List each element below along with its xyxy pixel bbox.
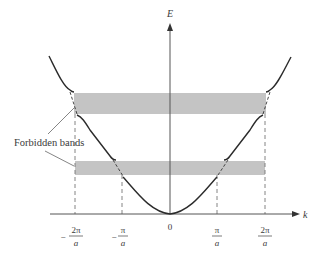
k-axis-label: k: [303, 209, 308, 220]
svg-text:a: a: [263, 238, 268, 248]
tick-label-neg-pi-a: − π a: [111, 225, 128, 248]
e-axis-label: E: [166, 8, 173, 19]
svg-text:−: −: [60, 232, 65, 242]
svg-text:a: a: [215, 238, 220, 248]
e-axis-arrow-icon: [167, 23, 173, 31]
svg-text:a: a: [121, 238, 126, 248]
tick-label-2pi-a: 2π a: [258, 225, 272, 248]
svg-text:π: π: [121, 225, 126, 235]
svg-text:π: π: [215, 225, 220, 235]
forbidden-bands-label: Forbidden bands: [14, 137, 84, 148]
tick-label-zero: 0: [168, 222, 173, 232]
svg-text:−: −: [111, 232, 116, 242]
energy-band-diagram: Forbidden bands E k − 2π a − π a 0 π a 2…: [0, 0, 321, 259]
svg-text:2π: 2π: [71, 225, 81, 235]
k-axis-arrow-icon: [292, 211, 300, 217]
svg-text:2π: 2π: [260, 225, 270, 235]
svg-text:a: a: [74, 238, 79, 248]
tick-label-pi-a: π a: [212, 225, 222, 248]
tick-label-neg-2pi-a: − 2π a: [60, 225, 83, 248]
svg-text:0: 0: [168, 222, 173, 232]
axes: [50, 23, 300, 217]
